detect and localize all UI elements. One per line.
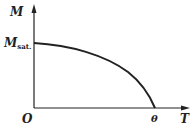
y-axis-arrow-icon [32,4,37,13]
magnetization-curve [34,43,155,108]
critical-temperature-label: θ [151,114,158,124]
x-axis-arrow-icon [181,106,190,111]
saturation-label-main: M [4,36,17,50]
x-axis-label: T [180,113,189,125]
magnetization-diagram: M Msat. O θ T [0,0,195,132]
y-axis-label: M [10,6,23,18]
origin-label: O [22,113,32,125]
saturation-label-sub: sat. [17,42,31,51]
saturation-label: Msat. [4,37,31,50]
